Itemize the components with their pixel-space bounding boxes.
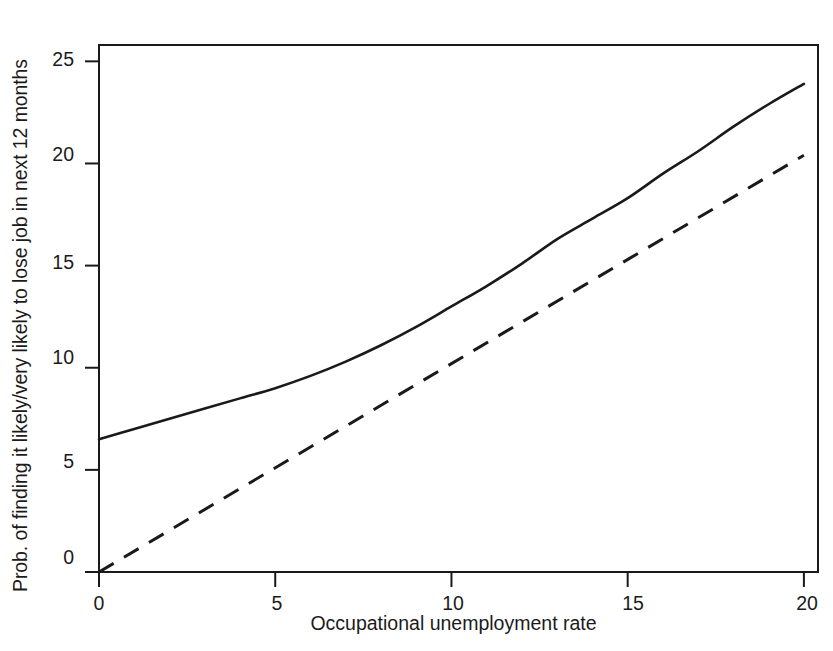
chart-figure: Prob. of finding it likely/very likely t…: [0, 0, 833, 651]
series-line-dashed: [99, 155, 804, 572]
plot-frame: [99, 45, 818, 572]
y-tick-marks: [85, 61, 99, 572]
plot-area: [0, 0, 833, 651]
series-line-solid: [99, 84, 804, 439]
x-tick-marks: [99, 572, 804, 587]
